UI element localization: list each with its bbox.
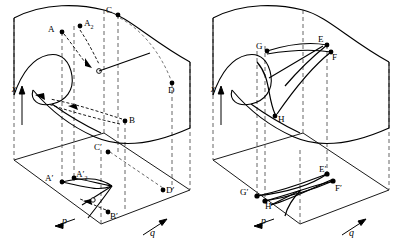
axis-label-q: q — [349, 228, 354, 238]
trajectories-right — [257, 44, 331, 114]
point-B — [123, 119, 128, 124]
label-D: D — [168, 86, 175, 95]
axis-label-x: x — [12, 84, 16, 94]
arrowhead-A-branch — [85, 58, 92, 68]
panel-right-graphics — [201, 0, 402, 252]
x-axis-right — [218, 86, 224, 125]
point-C — [116, 13, 121, 18]
label-C: C — [106, 6, 112, 15]
label-A2-prime: A′2 — [76, 170, 87, 181]
base-plane-left — [14, 133, 190, 224]
point-H — [273, 114, 278, 119]
point-C-prime — [106, 150, 111, 155]
label-E-prime: E′ — [319, 165, 326, 174]
q-axis-left — [143, 219, 167, 235]
figure-root: A A2 C D B A′ A′2 C′ D′ B′ x p q — [0, 0, 402, 252]
diagram-panel-right: G E F H G′ H′ E′ F′ x p q — [201, 0, 402, 252]
label-A2: A2 — [84, 19, 94, 30]
label-F: F — [332, 53, 337, 62]
point-E — [325, 43, 330, 48]
label-G-prime: G′ — [240, 188, 248, 197]
x-axis-left — [19, 86, 25, 125]
point-A2 — [78, 24, 83, 29]
label-A: A — [48, 25, 55, 34]
label-A-prime: A′ — [45, 174, 53, 183]
label-D-prime: D′ — [166, 186, 174, 195]
label-E: E — [318, 35, 324, 44]
fold-surface-left — [14, 6, 190, 160]
label-B: B — [129, 116, 135, 125]
axis-label-p: p — [62, 216, 67, 226]
point-G-prime — [254, 193, 259, 198]
label-H-prime: H′ — [265, 202, 273, 211]
point-A-prime — [60, 180, 65, 185]
label-H: H — [278, 115, 285, 124]
label-B-prime: B′ — [110, 212, 118, 221]
base-curves-left — [62, 178, 112, 218]
label-G: G — [256, 42, 263, 51]
point-A — [60, 30, 65, 35]
diagram-panel-left: A A2 C D B A′ A′2 C′ D′ B′ x p q — [0, 0, 201, 252]
label-F-prime: F′ — [335, 184, 342, 193]
trajectory-A-to-fold-left — [64, 30, 99, 66]
fold-surface-right — [213, 6, 389, 144]
surface-point-dots-right — [265, 43, 334, 119]
axis-label-q: q — [150, 228, 155, 238]
axis-label-p: p — [261, 216, 266, 226]
point-D-prime — [161, 188, 166, 193]
label-C-prime: C′ — [94, 143, 102, 152]
trajectory-C-to-D-left — [120, 18, 171, 80]
separatrix-left — [99, 53, 150, 71]
q-axis-right — [342, 219, 366, 235]
base-open-node-left — [91, 198, 95, 202]
trajectory-B-to-fold-left — [48, 99, 122, 124]
base-plane-right — [213, 133, 389, 224]
point-G — [265, 49, 270, 54]
base-dash-C-D-left — [110, 152, 163, 188]
panel-left-graphics — [0, 0, 201, 252]
axis-label-x: x — [211, 84, 215, 94]
